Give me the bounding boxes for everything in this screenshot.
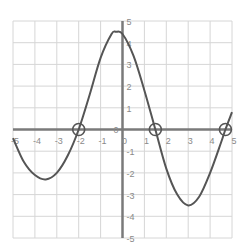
y-tick-label: -4 <box>127 212 135 222</box>
y-tick-label: 0 <box>113 125 118 135</box>
x-tick-label: 4 <box>210 136 215 146</box>
y-tick-label: 2 <box>127 82 132 92</box>
x-tick-label: 3 <box>188 136 193 146</box>
x-tick-label: 1 <box>144 136 149 146</box>
y-tick-label: -2 <box>127 169 135 179</box>
y-tick-label: 3 <box>127 60 132 70</box>
y-tick-label: 1 <box>127 104 132 114</box>
axes <box>13 21 232 238</box>
x-tick-label: -1 <box>99 136 107 146</box>
x-tick-label: -3 <box>55 136 63 146</box>
y-tick-label: -5 <box>127 234 135 244</box>
x-tick-labels: -5-4-3-2-1012345 <box>11 136 237 146</box>
x-tick-label: 0 <box>122 136 127 146</box>
y-tick-label: -1 <box>127 147 135 157</box>
x-tick-label: -4 <box>33 136 41 146</box>
y-tick-label: -3 <box>127 191 135 201</box>
x-tick-label: 2 <box>166 136 171 146</box>
function-graph: -5-4-3-2-1012345 -5-4-3-2-1012345 <box>0 0 244 250</box>
x-tick-label: 5 <box>231 136 236 146</box>
y-tick-label: 5 <box>127 17 132 27</box>
x-tick-label: -2 <box>77 136 85 146</box>
